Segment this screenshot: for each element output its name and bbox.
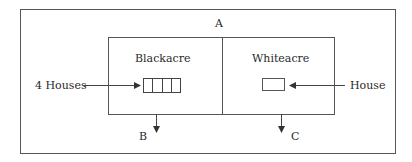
inner-parcel-box (109, 38, 335, 115)
single-house-icon (263, 79, 285, 91)
house-label: House (350, 79, 385, 92)
outer-parcel-label: A (214, 17, 224, 30)
parcel-diagram: A Blackacre Whiteacre 4 Houses House B C (0, 0, 412, 162)
whiteacre-label: Whiteacre (252, 52, 309, 65)
four-houses-icon (144, 79, 181, 93)
output-c-label: C (291, 130, 299, 143)
four-houses-label: 4 Houses (35, 79, 87, 92)
blackacre-label: Blackacre (135, 52, 190, 65)
output-b-label: B (139, 130, 147, 143)
